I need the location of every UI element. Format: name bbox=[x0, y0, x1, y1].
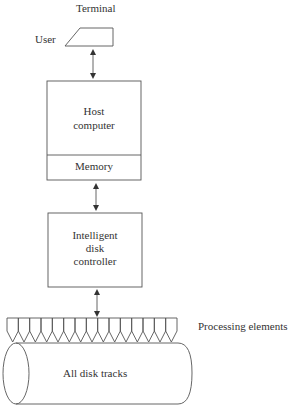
terminal-label: Terminal bbox=[76, 2, 116, 15]
processing-elements bbox=[7, 318, 177, 342]
diagram-canvas bbox=[0, 0, 294, 405]
controller-label-line1: Intelligent bbox=[48, 229, 142, 242]
host-label-line2: computer bbox=[47, 119, 141, 132]
disk-cylinder-end bbox=[3, 343, 29, 404]
disk-tracks-label: All disk tracks bbox=[63, 367, 127, 380]
processing-elements-label: Processing elements bbox=[198, 320, 288, 333]
controller-label-line3: controller bbox=[48, 255, 142, 268]
memory-label: Memory bbox=[47, 160, 141, 173]
host-label-line1: Host bbox=[47, 105, 141, 118]
user-label: User bbox=[35, 33, 56, 46]
controller-label-line2: disk bbox=[48, 242, 142, 255]
terminal-shape bbox=[65, 28, 113, 46]
